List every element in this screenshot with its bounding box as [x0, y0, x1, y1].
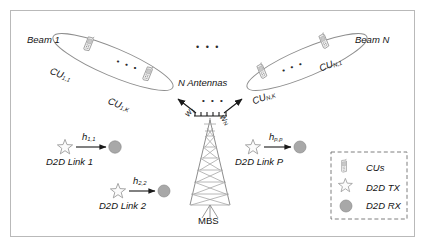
legend-label-d2d-rx: D2D RX	[366, 201, 401, 211]
antenna-array-dots: • • •	[202, 97, 225, 105]
d2d-link-p-rx-circle	[294, 141, 306, 153]
h-p-p-subscript: p,p	[274, 136, 282, 142]
beamforming-arrow-wN	[224, 99, 242, 113]
cu-1-K-subscript: 1,K	[119, 105, 129, 114]
figure-canvas: Beam 1 CU1,1 CU1,K • • • Beam N CUN,1 CU…	[0, 0, 427, 252]
d2d-link-p-label: D2D Link P	[235, 157, 283, 167]
d2d-link-p-tx-star	[245, 139, 260, 154]
cu-1-K-icon	[142, 65, 153, 82]
legend-label-d2d-tx: D2D TX	[366, 183, 400, 193]
cu-N-K-icon	[256, 62, 267, 79]
d2d-link-1-rx-circle	[109, 141, 121, 153]
d2d-link-2-rx-circle	[158, 185, 170, 197]
mbs-tower-icon	[190, 118, 230, 218]
d2d-link-1-tx-star	[57, 139, 72, 154]
d2d-link-p-channel-label: hp,p	[269, 132, 282, 143]
legend-label-cus: CUs	[366, 163, 384, 173]
h-2-2-subscript: 2,2	[138, 180, 146, 186]
legend-phone-icon	[342, 159, 347, 172]
mbs-label: MBS	[198, 216, 219, 226]
legend-star-icon	[338, 178, 352, 191]
beam-n-ellipse	[242, 24, 373, 101]
beam-1-ellipse	[48, 24, 179, 101]
d2d-link-1-channel-label: h1,1	[82, 132, 95, 143]
cu-N-1-icon	[318, 32, 329, 49]
beam-1-label: Beam 1	[27, 35, 60, 45]
beams-between-dots: • • •	[196, 43, 220, 52]
d2d-link-2-channel-label: h2,2	[133, 176, 146, 187]
d2d-link-2-label: D2D Link 2	[99, 201, 146, 211]
d2d-link-1-label: D2D Link 1	[46, 157, 93, 167]
legend-circle-icon	[340, 200, 352, 212]
n-antennas-label: N Antennas	[178, 78, 227, 88]
d2d-link-2-tx-star	[110, 183, 125, 198]
h-1-1-subscript: 1,1	[87, 136, 95, 142]
beam-n-label: Beam N	[355, 35, 389, 45]
